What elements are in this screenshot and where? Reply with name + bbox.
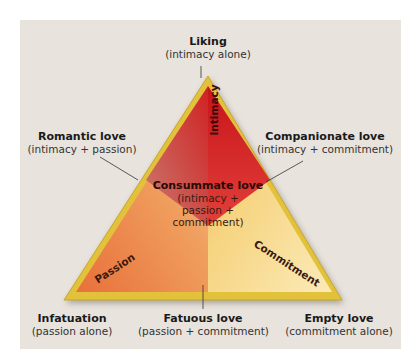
axis-intimacy: Intimacy <box>208 84 220 135</box>
edge-romantic-subtitle: (intimacy + passion) <box>22 143 142 155</box>
center-line-3: commitment) <box>148 216 268 228</box>
vertex-empty-subtitle: (commitment alone) <box>280 325 398 337</box>
edge-romantic-love: Romantic love (intimacy + passion) <box>22 131 142 155</box>
vertex-infatuation-subtitle: (passion alone) <box>22 325 122 337</box>
center-title: Consummate love <box>148 180 268 192</box>
edge-fatuous-love: Fatuous love (passion + commitment) <box>138 313 268 337</box>
vertex-liking-subtitle: (intimacy alone) <box>154 48 262 60</box>
vertex-empty-title: Empty love <box>280 313 398 325</box>
center-line-1: (intimacy + <box>148 192 268 204</box>
vertex-liking: Liking (intimacy alone) <box>154 36 262 60</box>
center-consummate-love: Consummate love (intimacy + passion + co… <box>148 180 268 228</box>
edge-companionate-subtitle: (intimacy + commitment) <box>255 143 395 155</box>
vertex-infatuation-title: Infatuation <box>22 313 122 325</box>
edge-fatuous-subtitle: (passion + commitment) <box>138 325 268 337</box>
vertex-infatuation: Infatuation (passion alone) <box>22 313 122 337</box>
edge-fatuous-title: Fatuous love <box>138 313 268 325</box>
center-line-2: passion + <box>148 204 268 216</box>
edge-romantic-title: Romantic love <box>22 131 142 143</box>
edge-companionate-love: Companionate love (intimacy + commitment… <box>255 131 395 155</box>
edge-companionate-title: Companionate love <box>255 131 395 143</box>
vertex-liking-title: Liking <box>154 36 262 48</box>
vertex-empty-love: Empty love (commitment alone) <box>280 313 398 337</box>
